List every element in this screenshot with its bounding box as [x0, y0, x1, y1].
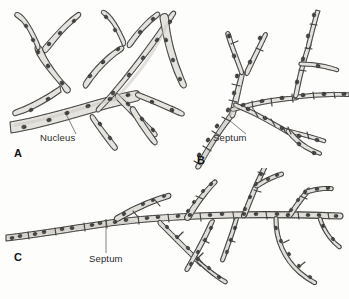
callout-nucleus-label: Nucleus — [40, 132, 75, 143]
panel-letter-b: B — [197, 154, 205, 166]
hyphae-figure: Nucleus A — [0, 0, 349, 299]
hyphae-illustration: Nucleus A — [0, 0, 349, 299]
callout-septum-b-label: Septum — [213, 132, 247, 143]
panel-letter-a: A — [14, 147, 22, 159]
panel-letter-c: C — [14, 251, 22, 263]
callout-septum-c-label: Septum — [89, 253, 123, 264]
